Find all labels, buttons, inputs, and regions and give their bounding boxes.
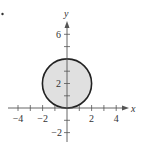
y-axis-arrow-icon <box>65 21 70 28</box>
x-tick-label: −2 <box>37 113 48 124</box>
y-tick-label: 2 <box>56 78 61 89</box>
x-tick-label: 2 <box>89 113 94 124</box>
x-axis-label: x <box>130 103 136 114</box>
x-tick-label: −4 <box>13 113 24 124</box>
graph-figure: x y −4 −2 2 4 6 2 −2 <box>0 0 143 151</box>
bullet-dot <box>1 13 3 15</box>
x-tick-label: 4 <box>114 113 119 124</box>
x-axis-arrow-icon <box>122 106 129 111</box>
y-axis-label: y <box>63 8 69 19</box>
y-tick-label: −2 <box>51 127 62 138</box>
y-tick-label: 6 <box>56 29 61 40</box>
